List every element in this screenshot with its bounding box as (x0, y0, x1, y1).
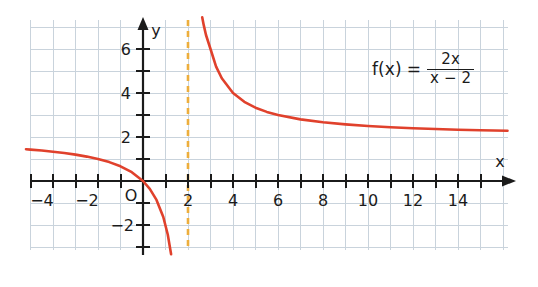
formula-denominator: x − 2 (427, 70, 474, 87)
svg-text:−2: −2 (75, 191, 99, 210)
svg-text:O: O (125, 186, 138, 205)
y-axis (136, 17, 150, 255)
formula-equals: = (407, 59, 421, 79)
svg-text:10: 10 (358, 191, 378, 210)
formula-numerator: 2x (438, 52, 463, 69)
svg-text:2: 2 (183, 191, 193, 210)
formula-fraction: 2x x − 2 (427, 52, 474, 87)
svg-text:12: 12 (403, 191, 423, 210)
svg-text:4: 4 (228, 191, 238, 210)
function-formula-annotation: f(x) = 2x x − 2 (372, 51, 474, 86)
plot-area: x y −4 −2 O 2 4 6 8 10 12 14 6 4 2 −2 (0, 0, 538, 287)
svg-text:4: 4 (121, 84, 131, 103)
y-axis-label: y (151, 21, 160, 40)
svg-text:6: 6 (121, 40, 131, 59)
svg-text:−4: −4 (30, 191, 54, 210)
svg-text:−2: −2 (110, 216, 134, 235)
x-tick-labels: −4 −2 O 2 4 6 8 10 12 14 (30, 186, 468, 210)
svg-text:8: 8 (318, 191, 328, 210)
function-graph-figure: x y −4 −2 O 2 4 6 8 10 12 14 6 4 2 −2 f(… (0, 0, 538, 287)
svg-text:14: 14 (448, 191, 468, 210)
x-axis (30, 174, 516, 188)
svg-text:2: 2 (121, 128, 131, 147)
x-axis-label: x (495, 152, 504, 171)
svg-text:6: 6 (273, 191, 283, 210)
formula-lhs: f(x) (372, 59, 402, 79)
